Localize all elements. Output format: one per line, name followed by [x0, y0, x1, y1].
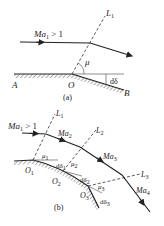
mu-label: μ [84, 57, 90, 67]
mach-3-label: Ma3 [102, 152, 117, 162]
point-o-label: O [68, 80, 75, 90]
flow-arrow-4 [140, 199, 144, 205]
inflow-mach-label: Ma1 > 1 [33, 29, 63, 40]
caption-b: (b) [54, 203, 64, 212]
mach-line-l3 [88, 174, 140, 186]
figure-a: Ma1 > 1 L1 μ dδ A O B (a) [11, 8, 132, 102]
mach-2-label: Ma2 [57, 129, 72, 139]
point-b-label: B [124, 88, 130, 98]
mach-line-l3-label: L3 [140, 170, 148, 180]
flow-arrow-2 [58, 139, 65, 142]
mach-line-l1-label: L1 [105, 8, 114, 19]
mu-3-label: μ3 [98, 183, 105, 192]
wall-ao-hatch [14, 74, 72, 78]
point-o1-label: O1 [25, 166, 34, 176]
mu-1-label: μ1 [42, 152, 49, 161]
figure-b: Ma1 > 1 L1 L2 L3 Ma2 Ma3 Ma4 μ1 μ2 μ3 dδ… [7, 109, 150, 212]
mu-2-label: μ2 [71, 160, 78, 169]
mach-4-label: Ma4 [135, 186, 150, 196]
caption-a: (a) [63, 93, 72, 102]
point-a-label: A [11, 80, 18, 90]
mach-line-l2-label: L2 [95, 126, 103, 136]
point-o2-label: O2 [52, 177, 61, 187]
mu-arc [78, 63, 84, 74]
inflow-mach-label: Ma1 > 1 [7, 121, 37, 132]
mach-line-l1-label: L1 [55, 109, 63, 119]
deflection-label: dδ [110, 77, 118, 86]
d-delta-2-label: dδ2 [80, 176, 90, 185]
prandtl-meyer-expansion-diagram: Ma1 > 1 L1 μ dδ A O B (a) Ma1 > 1 L1 L2 … [0, 0, 164, 226]
streamline-in [20, 42, 90, 43]
streamline-out [90, 43, 132, 56]
d-delta-1-label: dδ1 [56, 162, 66, 171]
d-delta-3-label: dδ3 [100, 198, 110, 207]
